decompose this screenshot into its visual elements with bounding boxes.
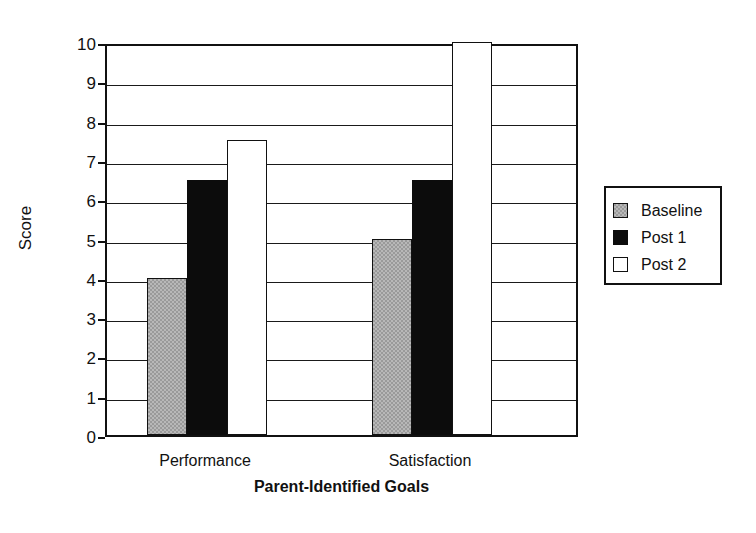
y-tick-mark [98, 358, 105, 360]
y-tick-mark [98, 241, 105, 243]
y-tick-label: 6 [62, 193, 96, 210]
bar [187, 180, 227, 435]
y-tick-mark [98, 319, 105, 321]
bar [147, 278, 187, 435]
legend-item: Post 2 [613, 251, 720, 278]
y-tick-mark [98, 123, 105, 125]
y-tick-label: 0 [62, 429, 96, 446]
bars-container [107, 46, 576, 435]
legend-item: Post 1 [613, 224, 720, 251]
y-tick-mark [98, 201, 105, 203]
y-tick-label: 4 [62, 271, 96, 288]
y-tick-label: 2 [62, 350, 96, 367]
y-axis-tick-labels: 012345678910 [62, 44, 96, 437]
bar [452, 42, 492, 435]
y-tick-mark [98, 437, 105, 439]
legend-swatch-icon [613, 257, 628, 272]
legend-label: Post 2 [641, 256, 686, 274]
bar [372, 239, 412, 436]
y-tick-label: 10 [62, 36, 96, 53]
y-tick-mark [98, 162, 105, 164]
y-axis-title: Score [16, 188, 36, 268]
plot-area [105, 44, 578, 437]
y-tick-mark [98, 280, 105, 282]
y-tick-label: 8 [62, 114, 96, 131]
bar-chart-figure: Score 012345678910 PerformanceSatisfacti… [0, 0, 756, 533]
legend-item: Baseline [613, 197, 720, 224]
y-tick-mark [98, 83, 105, 85]
legend-label: Post 1 [641, 229, 686, 247]
y-tick-label: 9 [62, 75, 96, 92]
y-tick-label: 7 [62, 153, 96, 170]
y-tick-mark [98, 398, 105, 400]
legend: BaselinePost 1Post 2 [604, 186, 722, 285]
y-tick-mark [98, 44, 105, 46]
legend-label: Baseline [641, 202, 702, 220]
x-axis-title: Parent-Identified Goals [105, 478, 578, 496]
bar [412, 180, 452, 435]
x-tick-label: Performance [159, 452, 251, 470]
y-tick-label: 3 [62, 311, 96, 328]
y-tick-label: 1 [62, 389, 96, 406]
legend-swatch-icon [613, 203, 628, 218]
x-tick-label: Satisfaction [389, 452, 472, 470]
legend-swatch-icon [613, 230, 628, 245]
bar [227, 140, 267, 435]
y-tick-label: 5 [62, 232, 96, 249]
